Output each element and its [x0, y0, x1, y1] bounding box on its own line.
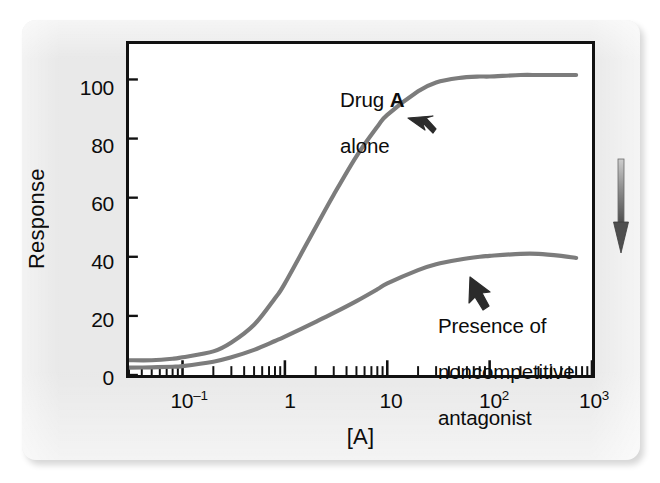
x-tick-1000-base: 10 — [579, 389, 602, 412]
x-tick-0.1-base: 10 — [170, 389, 193, 412]
annotation-drug-a-alone: Drug A alone — [340, 66, 404, 181]
x-tick-1-base: 1 — [284, 389, 295, 412]
y-tick-40: 40 — [91, 250, 114, 274]
annotation-drug-a-line2: alone — [340, 135, 404, 158]
y-tick-60: 60 — [91, 192, 114, 216]
annotation-antagonist-line2: noncompetitive — [438, 361, 575, 384]
annotation-drug-a-bold: A — [390, 88, 405, 111]
annotation-drug-a-prefix: Drug — [340, 88, 390, 111]
x-tick-1000-exponent: 3 — [602, 388, 609, 403]
annotation-antagonist-line1: Presence of — [438, 315, 575, 338]
x-tick-0.1-exponent: –1 — [193, 388, 207, 403]
x-tick-10: 10 — [380, 389, 403, 413]
y-tick-80: 80 — [91, 134, 114, 158]
annotation-noncompetitive-antagonist: Presence of noncompetitive antagonist — [438, 292, 575, 453]
y-axis-title: Response — [24, 139, 54, 299]
figure-root: 0 20 40 60 80 100 10–1 1 10 102 103 Resp… — [0, 0, 660, 483]
x-tick-1: 1 — [284, 389, 295, 413]
x-tick-0.1: 10–1 — [170, 389, 207, 413]
downward-arrow-icon — [612, 158, 630, 256]
y-tick-0: 0 — [103, 366, 114, 390]
annotation-antagonist-line3: antagonist — [438, 407, 575, 430]
x-tick-10-base: 10 — [380, 389, 403, 412]
annotation-drug-a-line1: Drug A — [340, 89, 404, 112]
y-axis-ticks — [129, 79, 138, 375]
y-tick-20: 20 — [91, 308, 114, 332]
y-tick-100: 100 — [80, 76, 114, 100]
x-tick-1000: 103 — [579, 389, 609, 413]
